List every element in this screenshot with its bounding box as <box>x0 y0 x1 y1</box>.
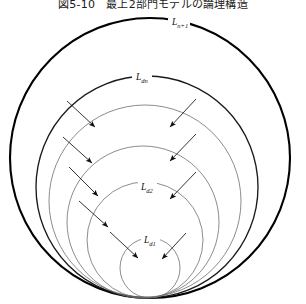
arrow-right-3 <box>170 172 196 199</box>
label-backgrounds <box>132 16 190 245</box>
circle-outer <box>10 18 290 298</box>
arrows-group <box>63 99 196 259</box>
label-dn-subscript: dn <box>141 77 148 84</box>
arrow-left-5 <box>110 232 138 258</box>
arrow-left-4 <box>79 201 108 227</box>
circle-d1 <box>120 238 180 298</box>
labels-group: Ln+1 Ldn Ld2 Ld1 <box>135 17 188 247</box>
circle-mid-upper <box>49 105 241 297</box>
arrow-right-1 <box>170 99 196 127</box>
figure-container: 図5-10 最上2部門モデルの論理構造 <box>0 0 306 304</box>
arrow-left-2 <box>63 137 92 163</box>
label-d2-subscript: d2 <box>146 187 153 194</box>
nested-circles-diagram: Ln+1 Ldn Ld2 Ld1 <box>0 0 306 304</box>
arrow-left-1 <box>67 101 95 127</box>
circles-group <box>10 18 290 298</box>
arrow-right-4 <box>162 233 186 259</box>
label-d1-subscript: d1 <box>149 240 156 247</box>
label-outer-subscript: n+1 <box>177 22 188 29</box>
